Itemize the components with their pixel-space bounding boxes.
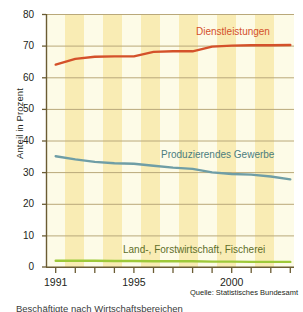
series-label-produzierendes-gewerbe: Produzierendes Gewerbe: [161, 149, 274, 160]
y-tick-label-80: 80: [8, 9, 34, 20]
y-axis-title: Anteil in Prozent: [14, 74, 25, 174]
y-tick-label-40: 40: [8, 135, 34, 146]
series-line-landwirtschaft: [56, 261, 291, 262]
x-tick-label-1991: 1991: [34, 276, 78, 288]
x-tick-label-1995: 1995: [112, 276, 156, 288]
figure-caption: Beschäftigte nach Wirtschaftsbereichen: [16, 303, 183, 312]
chart-container: Anteil in Prozent 80 70 60 50 40 30 20 1…: [0, 0, 303, 312]
y-tick-label-30: 30: [8, 167, 34, 178]
y-tick-label-0: 0: [8, 261, 34, 272]
y-tick-label-10: 10: [8, 230, 34, 241]
source-note: Quelle: Statistisches Bundesamt: [190, 288, 298, 297]
y-tick-label-20: 20: [8, 198, 34, 209]
y-tick-label-50: 50: [8, 103, 34, 114]
y-tick-label-70: 70: [8, 40, 34, 51]
y-axis-ticks: [42, 15, 46, 268]
series-label-dienstleistungen: Dienstleistungen: [196, 26, 270, 37]
series-label-landwirtschaft: Land-, Forstwirtschaft, Fischerei: [123, 244, 265, 255]
x-tick-label-2000: 2000: [210, 276, 254, 288]
y-tick-label-60: 60: [8, 72, 34, 83]
